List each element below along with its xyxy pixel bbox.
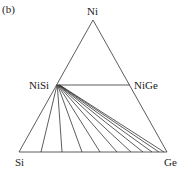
edge-ni-si: [19, 20, 93, 152]
tie-line: [58, 85, 117, 152]
tie-line: [59, 85, 143, 152]
tie-line: [41, 85, 57, 152]
ternary-diagram: [0, 0, 177, 170]
tie-line: [58, 85, 100, 152]
tie-line: [59, 85, 159, 152]
tie-line: [59, 85, 152, 152]
